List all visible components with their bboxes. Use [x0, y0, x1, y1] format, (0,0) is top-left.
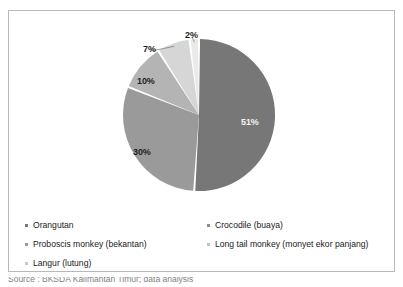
legend-item-long-tail-monkey[interactable]: Long tail monkey (monyet ekor panjang)	[207, 236, 397, 253]
legend-item-langur[interactable]: Langur (lutung)	[25, 255, 215, 272]
pie-svg	[9, 11, 396, 209]
legend-marker-icon	[207, 224, 210, 227]
pie-slice-group	[123, 39, 275, 191]
legend-item-label: Crocodile (buaya)	[215, 221, 283, 230]
legend-item-orangutan[interactable]: Orangutan	[25, 217, 215, 234]
source-caption: Source : BKSDA Kalimantan Timur; data an…	[8, 277, 395, 287]
legend-item-label: Proboscis monkey (bekantan)	[33, 240, 147, 249]
legend-item-label: Langur (lutung)	[33, 259, 91, 268]
legend-item-label: Orangutan	[33, 221, 74, 230]
legend-marker-icon	[25, 224, 28, 227]
legend: Orangutan Proboscis monkey (bekantan) La…	[9, 209, 396, 272]
slice-value-label-long-tail-monkey: 7%	[143, 44, 156, 54]
pie-plot-area: 51% 30% 10% 7% 2%	[9, 11, 396, 209]
slice-value-label-langur: 2%	[185, 30, 198, 40]
slice-value-label-orangutan: 51%	[241, 117, 259, 127]
legend-marker-icon	[25, 262, 28, 265]
legend-column-left: Orangutan Proboscis monkey (bekantan) La…	[25, 217, 215, 274]
slice-value-label-proboscis-monkey: 10%	[137, 76, 155, 86]
legend-item-label: Long tail monkey (monyet ekor panjang)	[215, 240, 368, 249]
slice-value-label-crocodile: 30%	[133, 147, 151, 157]
legend-item-proboscis-monkey[interactable]: Proboscis monkey (bekantan)	[25, 236, 215, 253]
pie-chart-figure: 51% 30% 10% 7% 2% Orangutan Proboscis mo…	[0, 0, 403, 287]
figure-frame: 51% 30% 10% 7% 2% Orangutan Proboscis mo…	[8, 10, 395, 272]
legend-item-crocodile[interactable]: Crocodile (buaya)	[207, 217, 397, 234]
legend-marker-icon	[25, 243, 28, 246]
pie-slice-orangutan[interactable]	[195, 39, 275, 191]
source-caption-text: Source : BKSDA Kalimantan Timur; data an…	[8, 277, 193, 284]
legend-marker-icon	[207, 243, 210, 246]
legend-column-right: Crocodile (buaya) Long tail monkey (mony…	[207, 217, 397, 255]
